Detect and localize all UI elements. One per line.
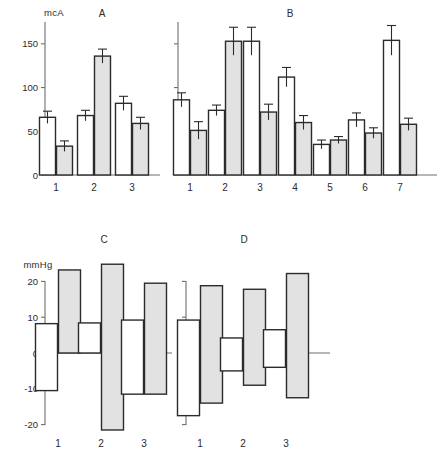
bar-filled <box>331 140 347 175</box>
bar-filled <box>226 41 242 175</box>
bar-filled <box>59 270 81 353</box>
bar-filled <box>296 123 312 175</box>
bar-open <box>174 100 190 175</box>
bar-open <box>122 320 144 394</box>
bar-open <box>264 330 286 368</box>
bar-open <box>79 323 101 353</box>
figure-svg: 050100150mcAA123B123456720100-10-20mmHgC… <box>0 0 443 470</box>
bar-filled <box>244 289 266 385</box>
y-axis-label-c: mmHg <box>23 259 52 270</box>
y-tick-label: 100 <box>22 82 38 93</box>
bar-filled <box>102 264 124 430</box>
bar-open <box>36 324 58 391</box>
bar-filled <box>261 112 277 175</box>
bar-open <box>178 320 200 416</box>
figure-panel-grid: 050100150mcAA123B123456720100-10-20mmHgC… <box>0 0 443 470</box>
bar-open <box>314 144 330 175</box>
bar-filled <box>201 286 223 403</box>
x-tick-label: 3 <box>283 438 289 449</box>
x-tick-label: 7 <box>397 182 403 193</box>
x-tick-label: 3 <box>141 438 147 449</box>
bar-filled <box>145 283 167 394</box>
x-tick-label: 1 <box>55 438 61 449</box>
bar-open <box>244 41 260 175</box>
y-tick-label: 10 <box>27 312 38 323</box>
bar-filled <box>133 123 149 175</box>
panel-title-a: A <box>99 8 106 19</box>
bar-open <box>116 103 132 175</box>
y-axis-label-a: mcA <box>44 7 64 18</box>
bar-filled <box>95 56 111 175</box>
y-tick-label: 50 <box>27 126 38 137</box>
y-tick-label: 150 <box>22 38 38 49</box>
bar-open <box>279 77 295 175</box>
x-tick-label: 3 <box>257 182 263 193</box>
x-tick-label: 2 <box>91 182 97 193</box>
bar-open <box>349 120 365 175</box>
x-tick-label: 3 <box>129 182 135 193</box>
bar-filled <box>401 124 417 175</box>
x-tick-label: 2 <box>240 438 246 449</box>
x-tick-label: 5 <box>327 182 333 193</box>
panel-title-b: B <box>287 8 294 19</box>
x-tick-label: 2 <box>222 182 228 193</box>
x-tick-label: 1 <box>187 182 193 193</box>
bar-open <box>209 110 225 175</box>
x-tick-label: 4 <box>292 182 298 193</box>
bar-open <box>40 117 56 175</box>
x-tick-label: 2 <box>98 438 104 449</box>
x-tick-label: 6 <box>362 182 368 193</box>
bar-open <box>78 116 94 175</box>
y-tick-label: 20 <box>27 276 38 287</box>
panel-title-c: C <box>100 234 107 245</box>
x-tick-label: 1 <box>197 438 203 449</box>
bar-open <box>384 40 400 175</box>
panel-title-d: D <box>240 234 247 245</box>
y-tick-label: -20 <box>24 419 38 430</box>
bar-filled <box>366 133 382 175</box>
bar-open <box>221 338 243 371</box>
bar-filled <box>287 274 309 398</box>
x-tick-label: 1 <box>53 182 59 193</box>
y-tick-label: 0 <box>33 170 38 181</box>
